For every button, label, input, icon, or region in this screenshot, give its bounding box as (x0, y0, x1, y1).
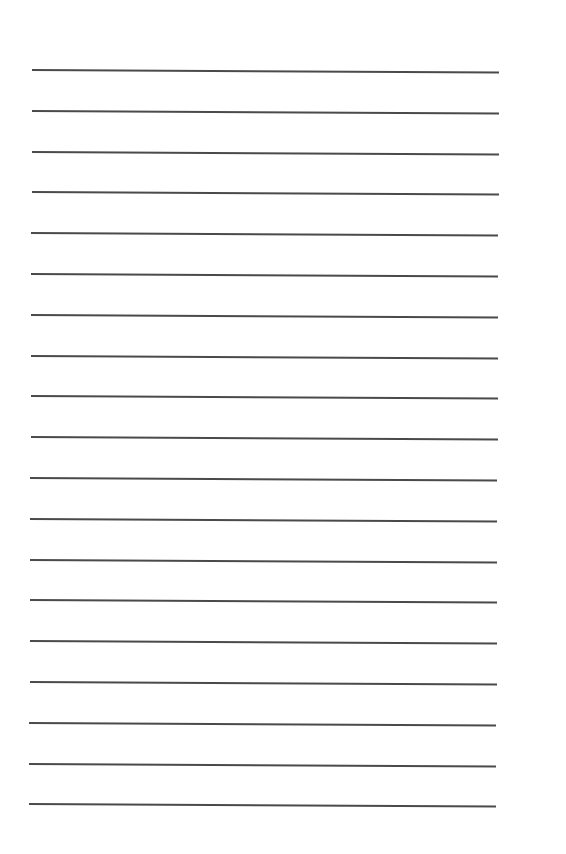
ruled-line (30, 518, 497, 522)
ruled-line (31, 355, 498, 359)
ruled-line (30, 477, 497, 481)
ruled-line (29, 681, 496, 685)
ruled-line (30, 640, 497, 644)
ruled-line (32, 69, 499, 73)
ruled-line (29, 803, 496, 807)
ruled-line (29, 763, 496, 767)
ruled-line (31, 395, 498, 399)
ruled-line (32, 110, 499, 114)
ruled-line (30, 559, 497, 563)
ruled-line (31, 232, 498, 236)
ruled-line (30, 436, 497, 440)
ruled-line (29, 722, 496, 726)
ruled-line (32, 151, 499, 155)
ruled-line (31, 273, 498, 277)
lined-paper-page (0, 0, 566, 854)
ruled-line (31, 191, 498, 195)
ruled-line (30, 599, 497, 603)
ruled-line (31, 314, 498, 318)
